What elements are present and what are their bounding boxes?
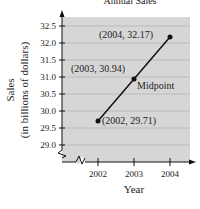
y-axis-title: Sales — [4, 78, 16, 101]
chart: 32.5 32.0 31.5 31.0 30.5 30.0 29.5 29.0 … — [0, 0, 200, 209]
x-axis-title: Year — [124, 183, 145, 195]
midpoint-annotation: Midpoint — [137, 80, 174, 91]
x-tick-label: 2002 — [89, 169, 107, 179]
y-tick-label: 29.5 — [40, 123, 56, 133]
y-tick-label: 30.5 — [40, 89, 56, 99]
point-label-2002: (2002, 29.71) — [102, 115, 156, 127]
data-point-2004 — [168, 35, 173, 40]
chart-title: Annual Sales — [103, 0, 156, 6]
y-tick-label: 32.0 — [40, 38, 56, 48]
y-axis-arrow-icon — [60, 10, 65, 17]
data-point-midpoint — [132, 77, 137, 82]
point-label-2003: (2003, 30.94) — [71, 63, 125, 75]
x-tick-label: 2003 — [125, 169, 144, 179]
y-tick-label: 30.0 — [40, 106, 56, 116]
y-tick-label: 32.5 — [40, 21, 56, 31]
data-point-2002 — [96, 119, 101, 124]
y-tick-label: 29.0 — [40, 140, 56, 150]
y-tick-label: 31.0 — [40, 72, 56, 82]
point-label-2004: (2004, 32.17) — [99, 29, 153, 41]
y-axis-subtitle: (in billions of dollars) — [18, 42, 31, 139]
y-tick-label: 31.5 — [40, 55, 56, 65]
x-axis-arrow-icon — [189, 160, 196, 165]
x-tick-label: 2004 — [161, 169, 180, 179]
